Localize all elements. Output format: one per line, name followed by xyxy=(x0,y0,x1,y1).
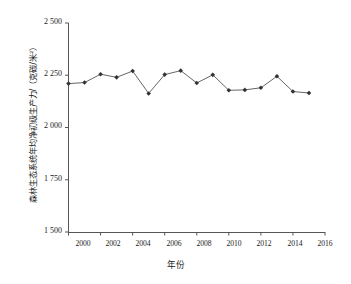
data-point xyxy=(98,72,103,77)
axis-lines xyxy=(69,23,326,233)
plot-area xyxy=(0,0,351,284)
data-point xyxy=(307,91,312,96)
y-tick-marks xyxy=(65,23,69,232)
chart-container: 森林生态系统年均净初级生产力/（克碳/米²） 年份 2 500 2 250 2 … xyxy=(0,0,351,284)
data-point xyxy=(243,88,248,93)
data-point xyxy=(114,75,119,80)
data-point xyxy=(66,81,71,86)
data-markers xyxy=(66,68,311,95)
data-point xyxy=(82,80,87,85)
data-line xyxy=(69,71,309,94)
